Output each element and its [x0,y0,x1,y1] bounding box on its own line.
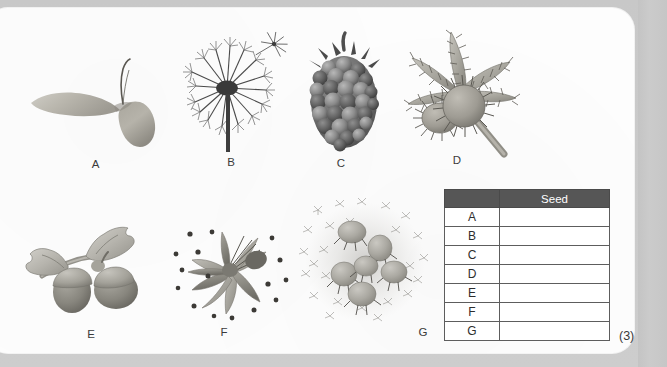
worksheet-page: A [0,0,667,367]
specimen-b-dandelion: B [182,28,300,173]
table-header-row: Seed [445,190,610,208]
specimen-label-c: C [292,157,390,169]
burr-cluster-illustration [300,196,430,344]
table-header-letter-column [445,190,500,208]
specimen-a-maple-seed: A [28,58,163,173]
row-letter-c: C [445,246,500,265]
row-answer-d[interactable] [500,265,610,284]
dandelion-illustration [182,28,300,173]
row-letter-b: B [445,227,500,246]
row-answer-c[interactable] [500,246,610,265]
row-answer-a[interactable] [500,208,610,227]
table-row: D [445,265,610,284]
row-letter-g: G [445,322,500,341]
row-answer-g[interactable] [500,322,610,341]
table-row: A [445,208,610,227]
burr-leaves-illustration [396,26,526,174]
acorn-illustration [24,216,164,341]
table-row: E [445,284,610,303]
row-letter-e: E [445,284,500,303]
specimen-label-f: F [160,326,288,338]
row-letter-d: D [445,265,500,284]
specimen-label-a: A [28,158,163,170]
specimen-d-burr-with-leaves: D [396,26,526,174]
table-header: Seed [445,190,610,208]
table-row: B [445,227,610,246]
specimen-label-e: E [21,328,161,340]
specimen-e-acorns: E [24,216,164,341]
specimen-g-burr-cluster: G [300,196,430,344]
table-body: A B C D E F G [445,208,610,341]
specimen-label-d: D [392,154,522,166]
exploding-pod-illustration [168,218,296,340]
specimen-c-blackberry: C [296,32,394,174]
table-row: G [445,322,610,341]
table-row: F [445,303,610,322]
row-answer-b[interactable] [500,227,610,246]
right-margin-strip [638,0,667,367]
row-letter-a: A [445,208,500,227]
row-answer-f[interactable] [500,303,610,322]
specimen-label-b: B [172,156,290,168]
maple-seed-illustration [28,58,163,173]
row-answer-e[interactable] [500,284,610,303]
specimen-f-exploding-pod: F [168,218,296,340]
marks-allocation: (3) [619,329,634,343]
table-row: C [445,246,610,265]
seed-answer-table: Seed A B C D E [444,189,610,341]
table-header-seed-column: Seed [500,190,610,208]
blackberry-illustration [296,32,394,174]
row-letter-f: F [445,303,500,322]
